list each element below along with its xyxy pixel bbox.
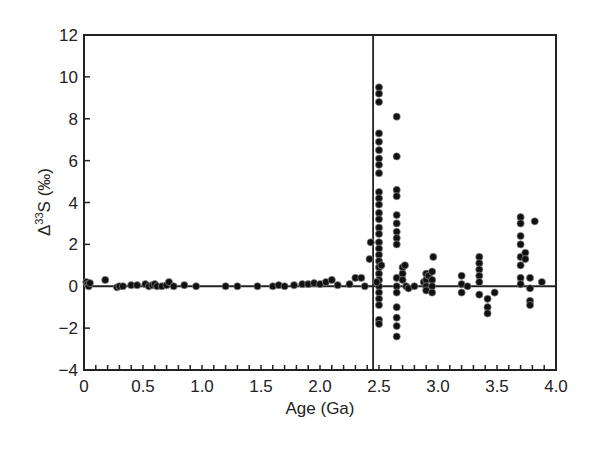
x-tick-label: 4.0 xyxy=(544,377,568,396)
data-point xyxy=(375,161,382,168)
data-point xyxy=(401,262,408,269)
y-axis-title-sup: 33 xyxy=(33,212,45,224)
data-point xyxy=(334,282,341,289)
x-tick-label: 0 xyxy=(79,377,88,396)
y-tick-label: 10 xyxy=(59,68,78,87)
data-point xyxy=(375,130,382,137)
data-point xyxy=(361,283,368,290)
data-point xyxy=(375,98,382,105)
data-point xyxy=(119,283,126,290)
data-point xyxy=(375,320,382,327)
data-point xyxy=(531,218,538,225)
data-point xyxy=(526,274,533,281)
data-point xyxy=(373,278,380,285)
data-point xyxy=(464,283,471,290)
data-point xyxy=(86,280,93,287)
data-point xyxy=(458,289,465,296)
data-point xyxy=(367,239,374,246)
data-point xyxy=(393,304,400,311)
data-point xyxy=(375,216,382,223)
y-axis-title: Δ33S (‰) xyxy=(33,168,54,236)
y-tick-label: 6 xyxy=(69,152,78,171)
data-point xyxy=(393,211,400,218)
data-point xyxy=(522,255,529,262)
x-tick-label: 3.5 xyxy=(485,377,509,396)
data-point xyxy=(517,232,524,239)
data-point xyxy=(102,276,109,283)
y-tick-label: 4 xyxy=(69,194,78,213)
data-point xyxy=(393,220,400,227)
data-point xyxy=(366,255,373,262)
scatter-chart: 00.51.01.52.02.53.03.54.0 121086420−2−4 … xyxy=(0,0,590,449)
data-point xyxy=(134,282,141,289)
y-axis-title-main: Δ xyxy=(35,225,54,236)
data-point xyxy=(393,289,400,296)
data-point xyxy=(375,147,382,154)
x-axis-title: Age (Ga) xyxy=(286,399,355,418)
data-point xyxy=(484,295,491,302)
data-point xyxy=(393,193,400,200)
data-point xyxy=(484,310,491,317)
data-point xyxy=(358,274,365,281)
x-tick-label: 3.0 xyxy=(426,377,450,396)
data-point xyxy=(393,241,400,248)
data-point xyxy=(393,322,400,329)
data-point xyxy=(193,283,200,290)
x-tick-label: 1.0 xyxy=(190,377,214,396)
data-point xyxy=(538,278,545,285)
data-point xyxy=(476,291,483,298)
data-point xyxy=(429,289,436,296)
data-point xyxy=(281,283,288,290)
data-point xyxy=(290,282,297,289)
data-point xyxy=(393,314,400,321)
y-tick-label: 12 xyxy=(59,26,78,45)
data-point xyxy=(517,241,524,248)
plot-frame xyxy=(84,35,556,370)
data-point xyxy=(517,281,524,288)
data-points xyxy=(83,84,546,340)
x-tick-label: 2.0 xyxy=(308,377,332,396)
data-point xyxy=(430,253,437,260)
data-point xyxy=(346,281,353,288)
data-point xyxy=(517,220,524,227)
y-axis-ticks: 121086420−2−4 xyxy=(59,26,90,380)
y-tick-label: −2 xyxy=(59,319,78,338)
data-point xyxy=(458,272,465,279)
data-point xyxy=(491,289,498,296)
data-point xyxy=(378,262,385,269)
x-tick-label: 1.5 xyxy=(249,377,273,396)
data-point xyxy=(526,285,533,292)
data-point xyxy=(375,170,382,177)
y-tick-label: 2 xyxy=(69,235,78,254)
data-point xyxy=(234,283,241,290)
y-axis-title-rest: S (‰) xyxy=(35,168,54,212)
data-point xyxy=(393,153,400,160)
reference-lines xyxy=(84,35,556,370)
data-point xyxy=(429,268,436,275)
data-point xyxy=(328,276,335,283)
data-point xyxy=(375,138,382,145)
data-point xyxy=(222,283,229,290)
data-point xyxy=(375,201,382,208)
data-point xyxy=(181,282,188,289)
data-point xyxy=(375,301,382,308)
x-tick-label: 2.5 xyxy=(367,377,391,396)
y-tick-label: 0 xyxy=(69,277,78,296)
data-point xyxy=(393,333,400,340)
data-point xyxy=(170,283,177,290)
y-tick-label: 8 xyxy=(69,110,78,129)
data-point xyxy=(375,90,382,97)
data-point xyxy=(526,301,533,308)
data-point xyxy=(375,230,382,237)
data-point xyxy=(476,278,483,285)
x-tick-label: 0.5 xyxy=(131,377,155,396)
data-point xyxy=(411,283,418,290)
data-point xyxy=(393,113,400,120)
y-tick-label: −4 xyxy=(59,361,78,380)
data-point xyxy=(254,283,261,290)
data-point xyxy=(517,262,524,269)
